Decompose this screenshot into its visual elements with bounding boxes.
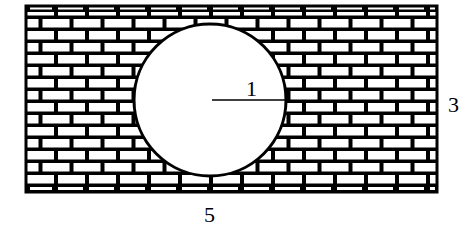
brick-wall-diagram: 1 3 5 — [0, 0, 463, 245]
radius-label: 1 — [246, 76, 257, 101]
bottom-course-bricks — [30, 187, 435, 190]
width-label: 5 — [204, 202, 215, 227]
height-label: 3 — [448, 92, 459, 117]
